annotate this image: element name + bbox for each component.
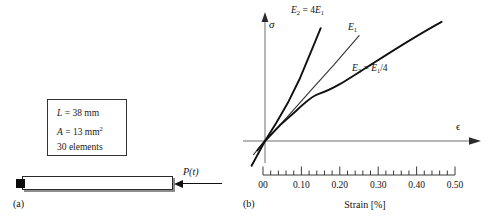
figure-root: L = 38 mm A = 13 mm2 30 elements P(t) (a… (0, 0, 487, 221)
load-arrow-icon (174, 180, 222, 188)
tick-label-4: 0.40 (408, 180, 425, 190)
curve-group (252, 22, 442, 166)
sigma-axis-label: σ (269, 18, 274, 30)
curve-label-e1: E1 (348, 22, 357, 33)
panel-a-caption: (a) (13, 198, 24, 209)
load-arrow-head (174, 180, 183, 188)
tick-label-1: 0.10 (293, 180, 310, 190)
fixed-support-icon (16, 179, 25, 188)
x-axis-caption: Strain [%] (344, 199, 385, 210)
bar-body (22, 176, 173, 190)
tick-label-0: 00 (258, 180, 268, 190)
bar-shadow (24, 190, 175, 192)
curve-label-e2-e1over4: E2 = E1/4 (352, 63, 388, 74)
tick-label-2: 0.20 (331, 180, 348, 190)
curve-e2-e1over4 (257, 22, 441, 151)
load-arrow-shaft (180, 183, 222, 184)
bar-assembly (15, 176, 175, 192)
panel-a-bar-model: L = 38 mm A = 13 mm2 30 elements P(t) (a… (0, 0, 243, 221)
panel-b-caption: (b) (243, 198, 255, 209)
curve-label-e2-4e1: E2 = 4E1 (291, 5, 324, 16)
property-length: L = 38 mm (57, 106, 126, 121)
tick-label-5: 0.50 (447, 180, 464, 190)
epsilon-axis (243, 137, 481, 145)
load-label: P(t) (183, 166, 199, 177)
tick-label-3: 0.30 (370, 180, 387, 190)
property-area: A = 13 mm2 (57, 121, 126, 140)
panel-b-stress-strain-chart: E2 = 4E1 E1 E2 = E1/4 σ ϵ 00 0.10 0.20 0… (243, 0, 487, 221)
properties-box: L = 38 mm A = 13 mm2 30 elements (47, 99, 127, 156)
property-elements: 30 elements (57, 140, 126, 155)
epsilon-axis-label: ϵ (456, 120, 460, 132)
strain-ruler (263, 167, 455, 176)
